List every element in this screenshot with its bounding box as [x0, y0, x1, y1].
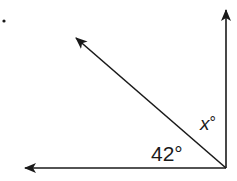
problem-marker-dot	[2, 19, 5, 22]
unknown-angle-label: x°	[199, 113, 216, 134]
angle-diagram: 42° x°	[0, 0, 237, 181]
unknown-angle-degree: °	[210, 114, 216, 131]
known-angle-label: 42°	[151, 142, 183, 165]
